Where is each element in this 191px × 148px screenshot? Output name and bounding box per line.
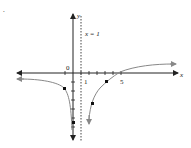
- origin-label: 0: [66, 64, 70, 72]
- tick-label-5: 5: [120, 78, 124, 86]
- y-axis-label: y: [76, 12, 81, 20]
- tick-label-1: 1: [84, 78, 88, 86]
- asymptote-label: x = 1: [84, 30, 100, 38]
- right-branch-curve: [89, 64, 173, 120]
- stray-dot: .: [3, 6, 5, 14]
- graph: . x y 0 1 5 x = 1: [0, 0, 191, 148]
- x-axis-label: x: [179, 71, 184, 79]
- left-branch-curve: [20, 79, 72, 130]
